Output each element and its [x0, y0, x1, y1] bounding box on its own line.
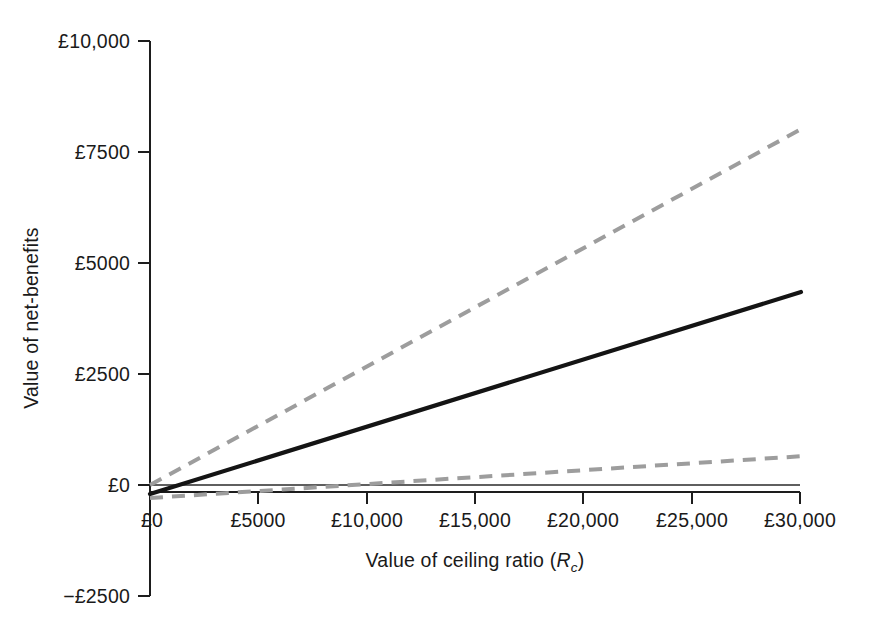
- y-axis-title: Value of net-benefits: [20, 227, 42, 409]
- net-benefit-chart: £10,000 £7500 £5000 £2500 £0 −£2500 Valu…: [0, 0, 870, 627]
- x-tick-label: £0: [141, 509, 163, 531]
- x-axis-title-prefix: Value of ceiling ratio (: [366, 549, 557, 571]
- y-tick-label: −£2500: [63, 585, 130, 607]
- x-tick-label: £15,000: [439, 509, 511, 531]
- y-tick-label: £7500: [75, 141, 130, 163]
- x-tick-label: £20,000: [547, 509, 619, 531]
- x-axis-title-suffix: ): [578, 549, 585, 571]
- y-tick-label: £5000: [75, 252, 130, 274]
- x-tick-label: £5000: [230, 509, 285, 531]
- y-tick-label: £0: [108, 474, 130, 496]
- figure-container: £10,000 £7500 £5000 £2500 £0 −£2500 Valu…: [0, 0, 870, 627]
- x-axis-title-subscript: c: [571, 560, 578, 575]
- x-tick-label: £25,000: [656, 509, 728, 531]
- y-tick-label: £10,000: [58, 30, 130, 52]
- chart-background: [0, 0, 870, 627]
- x-tick-label: £30,000: [764, 509, 836, 531]
- x-axis-title-symbol: R: [556, 549, 570, 571]
- x-tick-label: £10,000: [331, 509, 403, 531]
- y-tick-label: £2500: [75, 363, 130, 385]
